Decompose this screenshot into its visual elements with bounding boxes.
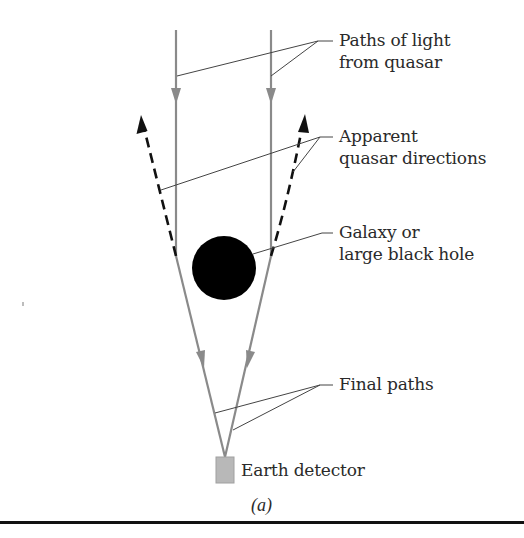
left-light-arrow-icon bbox=[171, 88, 181, 104]
leader-paths-of-light-2 bbox=[271, 41, 318, 76]
caption-text: (a) bbox=[251, 495, 272, 515]
earth-detector bbox=[216, 457, 234, 483]
right-apparent-arrow-icon bbox=[298, 114, 309, 133]
leader-apparent bbox=[161, 137, 333, 190]
left-apparent-arrow-icon bbox=[137, 115, 148, 134]
figure-caption: (a) bbox=[251, 495, 272, 516]
leader-lines bbox=[161, 41, 333, 430]
apparent-directions bbox=[137, 114, 310, 256]
label-paths-of-light-line1: Paths of light bbox=[339, 29, 450, 51]
label-galaxy: Galaxy or large black hole bbox=[339, 221, 474, 265]
label-paths-of-light: Paths of light from quasar bbox=[339, 29, 450, 73]
bottom-rule bbox=[0, 521, 524, 524]
label-earth-detector: Earth detector bbox=[241, 459, 365, 481]
right-apparent-direction bbox=[271, 128, 302, 256]
label-paths-of-light-line2: from quasar bbox=[339, 51, 450, 73]
label-apparent-directions: Apparent quasar directions bbox=[339, 125, 486, 169]
left-apparent-direction bbox=[144, 128, 176, 256]
right-light-arrow-icon bbox=[266, 88, 276, 104]
leader-final-paths-2 bbox=[233, 385, 320, 430]
scan-speck bbox=[22, 302, 24, 306]
right-final-arrow-icon bbox=[246, 350, 255, 368]
label-galaxy-line1: Galaxy or bbox=[339, 221, 474, 243]
leader-paths-of-light bbox=[177, 41, 333, 76]
label-final-paths: Final paths bbox=[339, 373, 433, 395]
gravitational-lensing-diagram bbox=[0, 0, 524, 538]
label-galaxy-line2: large black hole bbox=[339, 243, 474, 265]
leader-galaxy bbox=[253, 233, 333, 254]
left-final-arrow-icon bbox=[196, 350, 205, 368]
label-apparent-line1: Apparent bbox=[339, 125, 486, 147]
incoming-light-paths bbox=[171, 30, 276, 256]
label-apparent-line2: quasar directions bbox=[339, 147, 486, 169]
galaxy-black-hole bbox=[192, 236, 256, 300]
